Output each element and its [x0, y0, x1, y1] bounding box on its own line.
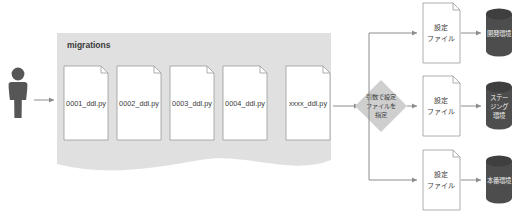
config-file-1[interactable]: 設定 ファイル	[423, 76, 460, 136]
migration-flow-diagram: migrations 0001_ddl.py 0002_ddl.py 0003_…	[0, 0, 530, 215]
diamond-decision-icon[interactable]: 引数で設定 ファイルを 指定	[355, 80, 407, 132]
database-cylinder-icon-0[interactable]: 開発環境	[486, 9, 512, 57]
config-file-2[interactable]: 設定 ファイル	[423, 150, 460, 210]
migration-file-label: 0002_ddl.py	[119, 99, 159, 108]
migration-file-0[interactable]: 0001_ddl.py	[64, 66, 108, 140]
config-file-label: 設定	[434, 170, 448, 179]
person-icon	[9, 68, 28, 118]
diagram-canvas: migrations 0001_ddl.py 0002_ddl.py 0003_…	[0, 0, 530, 215]
migrations-group-label: migrations	[67, 40, 111, 50]
config-file-label: ファイル	[427, 182, 455, 190]
database-cylinder-icon-1[interactable]: ステー ジング 環境	[486, 82, 512, 130]
decision-label: 指定	[375, 111, 387, 119]
config-file-0[interactable]: 設定 ファイル	[423, 3, 460, 63]
migration-file-3[interactable]: 0004_ddl.py	[223, 66, 267, 140]
environment-label: 開発環境	[487, 29, 512, 38]
config-file-label: ファイル	[427, 35, 455, 43]
migration-file-label: xxxx_ddl.py	[289, 99, 327, 108]
decision-label: 引数で設定	[366, 93, 396, 101]
config-file-label: ファイル	[427, 108, 455, 116]
environment-label: ステー	[490, 94, 508, 101]
environment-label: ジング	[490, 102, 509, 111]
config-file-label: 設定	[434, 23, 448, 32]
migration-file-label: 0003_ddl.py	[172, 99, 212, 108]
migration-file-4[interactable]: xxxx_ddl.py	[286, 66, 330, 140]
environment-label: 環境	[493, 111, 506, 120]
migration-file-1[interactable]: 0002_ddl.py	[117, 66, 161, 140]
migration-file-label: 0001_ddl.py	[66, 99, 106, 108]
database-cylinder-icon-2[interactable]: 本番環境	[486, 156, 512, 204]
environment-label: 本番環境	[487, 176, 512, 185]
migration-file-2[interactable]: 0003_ddl.py	[170, 66, 214, 140]
decision-label: ファイルを	[366, 102, 396, 110]
config-file-label: 設定	[434, 96, 448, 105]
migration-file-label: 0004_ddl.py	[225, 99, 265, 108]
